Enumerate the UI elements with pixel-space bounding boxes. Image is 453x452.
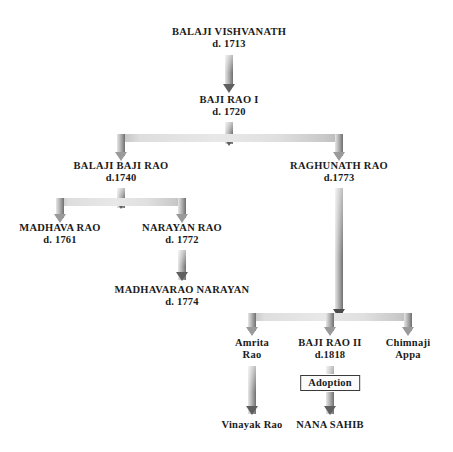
connector-bar-level3-left	[56, 198, 186, 206]
node-madhavarao-narayan: MADHAVARAO NARAYAN d. 1774	[115, 284, 250, 309]
node-death-year: d. 1720	[199, 106, 258, 118]
node-name: Amrita	[235, 337, 269, 349]
arrowhead-to-baji-rao-i	[223, 84, 235, 93]
node-narayan-rao: NARAYAN RAO d. 1772	[142, 222, 222, 247]
connector-balaji-vishvanath-to-baji-rao-i	[225, 55, 233, 87]
node-death-year: d.1740	[74, 172, 169, 184]
node-name: BAJI RAO I	[199, 94, 258, 106]
node-balaji-vishvanath: BALAJI VISHVANATH d. 1713	[172, 26, 286, 51]
node-death-year: d. 1774	[115, 296, 250, 308]
node-baji-rao-i: BAJI RAO I d. 1720	[199, 94, 258, 119]
node-amrita-rao: Amrita Rao	[235, 337, 269, 362]
node-chimnaji-appa: Chimnaji Appa	[386, 337, 431, 362]
node-death-year: d. 1772	[142, 234, 222, 246]
node-death-year: d. 1761	[19, 234, 100, 246]
arrowhead-to-chimnaji-appa	[402, 327, 414, 336]
node-nana-sahib: NANA SAHIB	[296, 419, 364, 431]
node-name: Chimnaji	[386, 337, 431, 349]
node-name: MADHAVA RAO	[19, 222, 100, 234]
node-name: MADHAVARAO NARAYAN	[115, 284, 250, 296]
node-name: NARAYAN RAO	[142, 222, 222, 234]
adoption-label: Adoption	[300, 375, 360, 391]
arrowhead-to-nana-sahib	[324, 406, 336, 415]
arrowhead-to-madhavarao-narayan	[176, 272, 188, 281]
connector-bar-level2	[117, 134, 343, 142]
node-name: RAGHUNATH RAO	[290, 160, 388, 172]
node-balaji-baji-rao: BALAJI BAJI RAO d.1740	[74, 160, 169, 185]
node-name: BAJI RAO II	[298, 337, 361, 349]
node-death-year: d. 1713	[172, 38, 286, 50]
connector-raghunath-rao-down	[335, 188, 343, 316]
node-name: NANA SAHIB	[296, 419, 364, 431]
node-raghunath-rao: RAGHUNATH RAO d.1773	[290, 160, 388, 185]
node-death-year: d.1773	[290, 172, 388, 184]
node-name-line2: Rao	[235, 349, 269, 361]
node-name: BALAJI VISHVANATH	[172, 26, 286, 38]
node-name: BALAJI BAJI RAO	[74, 160, 169, 172]
node-baji-rao-ii: BAJI RAO II d.1818	[298, 337, 361, 362]
arrowhead-to-amrita-rao	[246, 327, 258, 336]
arrowhead-to-vinayak-rao	[246, 406, 258, 415]
node-madhava-rao: MADHAVA RAO d. 1761	[19, 222, 100, 247]
family-tree-diagram: BALAJI VISHVANATH d. 1713 BAJI RAO I d. …	[0, 0, 453, 452]
node-death-year: d.1818	[298, 349, 361, 361]
arrowhead-to-baji-rao-ii	[324, 327, 336, 336]
node-name-line2: Appa	[386, 349, 431, 361]
node-name: Vinayak Rao	[222, 419, 283, 431]
node-vinayak-rao: Vinayak Rao	[222, 419, 283, 431]
